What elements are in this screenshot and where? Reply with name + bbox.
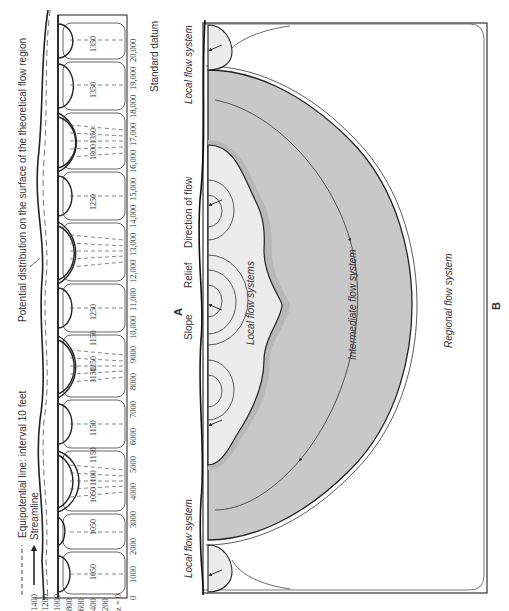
annotation-leader: [30, 258, 40, 267]
panel-b: Local flow system Direction of flow Reli…: [172, 20, 502, 595]
svg-text:4000: 4000: [128, 483, 138, 500]
local-flow-systems-label: Local flow systems: [245, 261, 256, 345]
svg-text:800: 800: [64, 598, 74, 611]
panel-b-label: B: [490, 302, 502, 310]
svg-text:1250: 1250: [89, 194, 98, 210]
svg-text:1350: 1350: [89, 128, 98, 144]
legend-streamline-label: Streamline: [29, 492, 40, 540]
svg-text:1200: 1200: [40, 594, 50, 611]
svg-text:1150: 1150: [89, 330, 98, 346]
svg-text:8000: 8000: [128, 373, 138, 390]
svg-text:17,000: 17,000: [128, 123, 138, 146]
svg-text:1250: 1250: [89, 304, 98, 320]
local-flow-system-left-label: Local flow system: [183, 499, 194, 578]
svg-text:1000: 1000: [52, 594, 62, 611]
svg-text:9000: 9000: [128, 346, 138, 363]
svg-text:1300: 1300: [89, 144, 98, 160]
surface-potential-dashed: [43, 10, 50, 600]
svg-text:z = 0: z = 0: [113, 594, 123, 611]
svg-text:6000: 6000: [128, 428, 138, 445]
x-axis-ticks: 0 1000 2000 3000 4000 5000 6000 7000 800…: [128, 39, 138, 600]
svg-text:1150: 1150: [89, 420, 98, 436]
svg-text:1400: 1400: [29, 594, 39, 611]
local-flow-system-right-label: Local flow system: [183, 25, 194, 104]
svg-text:20,000: 20,000: [128, 39, 138, 62]
slope-label: Slope: [183, 314, 194, 340]
svg-text:200: 200: [100, 598, 110, 611]
svg-text:1350: 1350: [89, 82, 98, 98]
regional-flow-system-label: Regional flow system: [443, 254, 454, 348]
svg-text:1100: 1100: [89, 470, 98, 486]
svg-text:7000: 7000: [128, 401, 138, 418]
svg-text:400: 400: [88, 598, 98, 611]
direction-of-flow-label: Direction of flow: [183, 176, 194, 248]
groundwater-flow-figure: Equipotential line: interval 10 feet Str…: [0, 0, 509, 611]
svg-text:0: 0: [128, 596, 138, 600]
svg-text:1350: 1350: [89, 36, 98, 52]
svg-text:13,000: 13,000: [128, 233, 138, 256]
standard-datum-label: Standard datum: [149, 21, 160, 92]
svg-text:3000: 3000: [128, 511, 138, 528]
svg-text:15,000: 15,000: [128, 178, 138, 201]
svg-text:12,000: 12,000: [128, 260, 138, 283]
svg-text:1000: 1000: [128, 566, 138, 583]
svg-text:5000: 5000: [128, 456, 138, 473]
svg-text:1050: 1050: [89, 564, 98, 580]
svg-text:1050: 1050: [89, 487, 98, 503]
legend-equipotential-label: Equipotential line: interval 10 feet: [17, 390, 28, 538]
svg-text:11,000: 11,000: [128, 288, 138, 311]
intermediate-flow-system-label: Intermediate flow system: [347, 249, 358, 360]
legend: Equipotential line: interval 10 feet Str…: [17, 390, 40, 595]
svg-text:2000: 2000: [128, 538, 138, 555]
surface-potential-annotation: Potential distribution on the surface of…: [17, 38, 28, 322]
panel-a: Equipotential line: interval 10 feet Str…: [17, 10, 160, 611]
relief-label: Relief: [183, 262, 194, 288]
svg-text:1150: 1150: [89, 447, 98, 463]
svg-text:14,000: 14,000: [128, 205, 138, 228]
svg-text:1050: 1050: [89, 519, 98, 535]
svg-text:1250: 1250: [89, 356, 98, 372]
svg-text:10,000: 10,000: [128, 316, 138, 339]
svg-text:600: 600: [76, 598, 86, 611]
svg-text:19,000: 19,000: [128, 67, 138, 90]
svg-text:18,000: 18,000: [128, 95, 138, 118]
svg-text:16,000: 16,000: [128, 150, 138, 173]
